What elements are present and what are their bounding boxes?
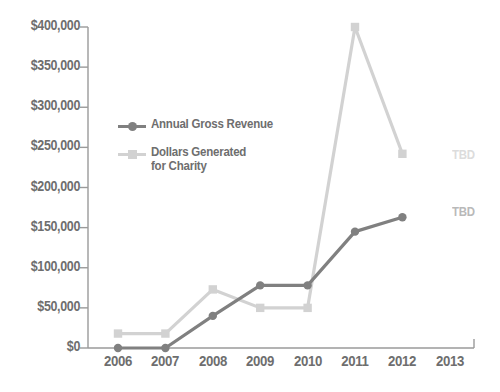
y-axis-tick-label: $300,000 [15,97,80,113]
tbd-label-revenue: TBD [452,204,475,219]
y-axis-tick-label: $350,000 [15,57,80,73]
chart-axes [88,27,474,348]
legend-item-dollars-generated-for-charity: Dollars Generated for Charity [118,146,254,173]
legend-label-charity: Dollars Generated for Charity [151,146,246,173]
chart-container: $0$50,000$100,000$150,000$200,000$250,00… [0,0,500,392]
y-axis-tick-label: $250,000 [15,137,80,153]
y-axis-ticks [80,27,88,348]
x-axis-tick-labels: 20062007200820092010201120122013 [0,352,500,382]
series-data-point [303,304,311,312]
x-axis-tick-label: 2011 [332,352,378,369]
series-data-point [161,329,169,337]
y-axis-tick-label: $150,000 [15,218,80,234]
series-data-point [209,285,217,293]
legend-swatch-revenue [118,119,146,133]
series-data-point [303,281,311,289]
series-data-point [398,213,406,221]
y-axis-tick-label: $100,000 [15,258,80,274]
x-axis-tick-label: 2013 [427,352,473,369]
tbd-label-charity: TBD [452,147,475,162]
series-data-point [114,329,122,337]
y-axis-tick-labels: $0$50,000$100,000$150,000$200,000$250,00… [0,0,80,392]
x-axis-tick-label: 2012 [380,352,426,369]
x-axis-tick-label: 2010 [285,352,331,369]
legend-item-annual-gross-revenue: Annual Gross Revenue [118,118,284,133]
series-data-point [114,344,122,352]
x-axis-tick-label: 2006 [95,352,141,369]
series-data-point [161,344,169,352]
x-axis-tick-label: 2008 [190,352,236,369]
x-axis-tick-label: 2009 [237,352,283,369]
y-axis-tick-label: $400,000 [15,17,80,33]
series-dollars-generated-for-charity [114,23,407,338]
series-data-point [209,312,217,320]
series-annual-gross-revenue [114,213,407,352]
series-data-point [398,150,406,158]
series-data-point [256,304,264,312]
y-axis-tick-label: $50,000 [15,298,80,314]
x-axis-tick-label: 2007 [143,352,189,369]
y-axis-tick-label: $200,000 [15,178,80,194]
series-data-point [256,281,264,289]
legend-label-revenue: Annual Gross Revenue [151,118,273,132]
series-data-point [351,23,359,31]
series-data-point [351,227,359,235]
legend-swatch-charity [118,147,146,161]
